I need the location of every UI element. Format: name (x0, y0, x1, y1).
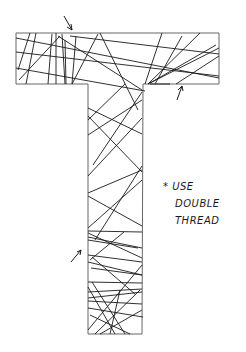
top-arrow-icon (64, 16, 72, 30)
left-arrow-icon (71, 250, 81, 262)
asterisk-marker: * (163, 181, 169, 192)
right-arrow-icon (177, 86, 183, 100)
note-line-2: DOUBLE (163, 195, 220, 212)
note-use: USE (172, 181, 194, 192)
t-letter-sketch (0, 0, 246, 352)
note-line-1: * USE (163, 178, 220, 195)
note-line-3: THREAD (163, 212, 220, 229)
thread-note: * USE DOUBLE THREAD (163, 178, 220, 229)
